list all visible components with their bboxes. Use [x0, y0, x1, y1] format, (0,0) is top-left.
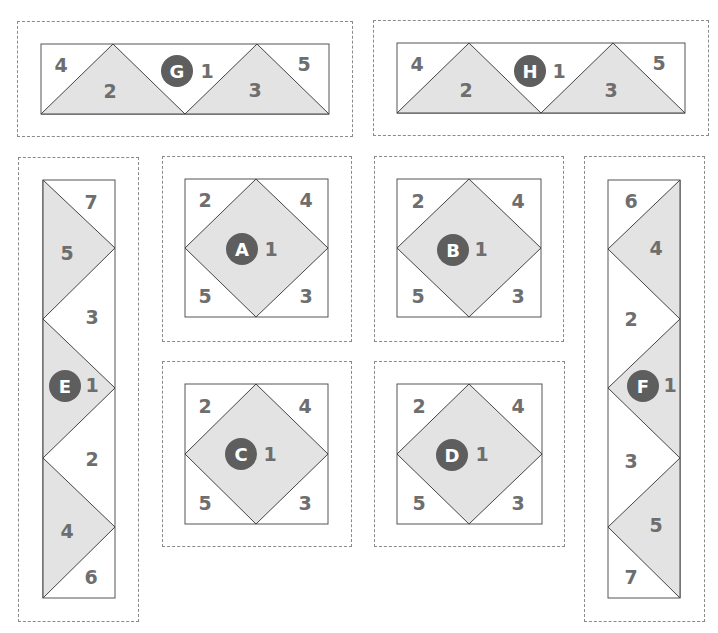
piece-2: 2 [103, 82, 116, 101]
piece-4: 4 [410, 55, 423, 74]
piece-5: 5 [412, 494, 425, 513]
piece-1: 1 [474, 240, 487, 259]
piece-4: 4 [649, 239, 662, 258]
block-c: 2 4 C 1 5 3 [185, 384, 328, 524]
piece-3: 3 [604, 81, 617, 100]
block-f: 6 4 2 F 1 3 5 7 [608, 180, 680, 598]
piece-5: 5 [198, 287, 211, 306]
piece-1: 1 [552, 62, 565, 81]
piece-4: 4 [299, 191, 312, 210]
block-label-badge: D [436, 439, 468, 471]
block-h: 4 2 H 1 3 5 [397, 43, 685, 113]
piece-4: 4 [60, 522, 73, 541]
piece-5: 5 [649, 516, 662, 535]
piece-1: 1 [663, 376, 676, 395]
piece-2: 2 [85, 450, 98, 469]
piece-6: 6 [84, 568, 97, 587]
piece-4: 4 [511, 192, 524, 211]
block-g: 4 2 G 1 3 5 [41, 44, 329, 114]
piece-2: 2 [624, 310, 637, 329]
piece-2: 2 [198, 191, 211, 210]
piece-5: 5 [198, 494, 211, 513]
piece-6: 6 [624, 192, 637, 211]
block-label-badge: B [437, 234, 469, 266]
piece-1: 1 [200, 62, 213, 81]
piece-3: 3 [624, 452, 637, 471]
piece-5: 5 [60, 244, 73, 263]
block-e: 7 5 3 E 1 2 4 6 [43, 180, 115, 598]
block-b: 2 4 B 1 5 3 [397, 179, 541, 317]
piece-7: 7 [624, 568, 637, 587]
piece-3: 3 [85, 308, 98, 327]
block-label-badge: G [161, 55, 193, 87]
piece-1: 1 [85, 376, 98, 395]
piece-5: 5 [297, 55, 310, 74]
piece-5: 5 [411, 287, 424, 306]
piece-4: 4 [298, 397, 311, 416]
block-a: 2 4 A 1 5 3 [185, 179, 328, 317]
piece-2: 2 [411, 192, 424, 211]
block-label-badge: C [225, 438, 257, 470]
piece-1: 1 [263, 445, 276, 464]
block-label-badge: E [49, 370, 81, 402]
piece-4: 4 [511, 397, 524, 416]
piece-2: 2 [459, 81, 472, 100]
piece-3: 3 [511, 287, 524, 306]
piece-1: 1 [475, 445, 488, 464]
piece-5: 5 [652, 54, 665, 73]
piece-3: 3 [511, 494, 524, 513]
block-label-badge: H [514, 55, 546, 87]
piece-3: 3 [299, 287, 312, 306]
block-d: 2 4 D 1 5 3 [397, 384, 542, 524]
piece-1: 1 [264, 240, 277, 259]
piece-3: 3 [248, 81, 261, 100]
piece-4: 4 [54, 56, 67, 75]
block-label-badge: F [627, 370, 659, 402]
piece-2: 2 [412, 397, 425, 416]
piece-2: 2 [198, 397, 211, 416]
block-label-badge: A [226, 233, 258, 265]
piece-7: 7 [84, 193, 97, 212]
piece-3: 3 [298, 494, 311, 513]
